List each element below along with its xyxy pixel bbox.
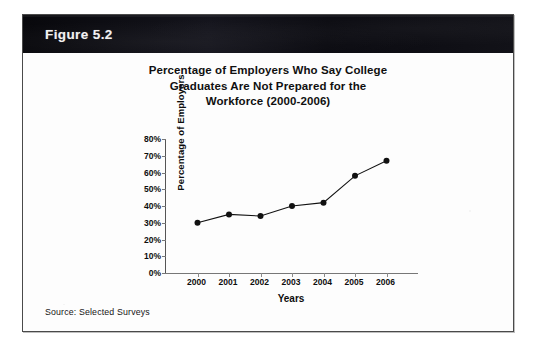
x-axis-tick-label: 2003 (282, 277, 301, 287)
y-axis-tick-label: 80% (119, 134, 161, 144)
plot-area: 2000: 30%2001: 35%2002: 34%2003: 40%2004… (165, 139, 418, 274)
y-axis-tick-mark (162, 256, 166, 257)
y-axis-tick-label: 40% (119, 201, 161, 211)
figure-card: Figure 5.2 Percentage of Employers Who S… (22, 14, 514, 332)
data-point-marker: 2000: 30% (195, 220, 201, 226)
x-axis-tick-label: 2006 (376, 277, 395, 287)
series-line (198, 161, 387, 223)
data-point-marker: 2001: 35% (226, 211, 232, 217)
y-axis-tick-label: 60% (119, 168, 161, 178)
data-point-marker: 2004: 42% (321, 200, 327, 206)
y-axis-tick-mark (162, 173, 166, 174)
y-axis-tick-labels: 0%10%20%30%40%50%60%70%80% (119, 139, 161, 273)
y-axis-tick-label: 30% (119, 218, 161, 228)
data-point-marker: 2005: 58% (352, 173, 358, 179)
y-axis-tick-mark (162, 273, 166, 274)
y-axis-tick-label: 70% (119, 151, 161, 161)
y-axis-tick-label: 0% (119, 268, 161, 278)
x-axis-tick-label: 2005 (345, 277, 364, 287)
x-axis-title: Years (165, 293, 417, 304)
data-point-marker: 2003: 40% (289, 203, 295, 209)
x-axis-tick-label: 2001 (219, 277, 238, 287)
x-axis-tick-label: 2000 (187, 277, 206, 287)
y-axis-tick-label: 20% (119, 235, 161, 245)
y-axis-tick-label: 50% (119, 184, 161, 194)
y-axis-tick-mark (162, 223, 166, 224)
data-point-marker: 2006: 67% (384, 158, 390, 164)
y-axis-tick-label: 10% (119, 251, 161, 261)
source-note: Source: Selected Surveys (45, 307, 150, 317)
data-point-marker: 2002: 34% (258, 213, 264, 219)
y-axis-tick-mark (162, 206, 166, 207)
y-axis-tick-mark (162, 156, 166, 157)
y-axis-tick-mark (162, 139, 166, 140)
chart-plot: Percentage of Employers 0%10%20%30%40%50… (23, 15, 513, 331)
line-series: 2000: 30%2001: 35%2002: 34%2003: 40%2004… (166, 139, 418, 273)
x-axis-tick-labels: 2000200120022003200420052006 (165, 277, 417, 291)
y-axis-tick-mark (162, 189, 166, 190)
y-axis-tick-mark (162, 240, 166, 241)
x-axis-tick-label: 2002 (250, 277, 269, 287)
x-axis-tick-label: 2004 (313, 277, 332, 287)
